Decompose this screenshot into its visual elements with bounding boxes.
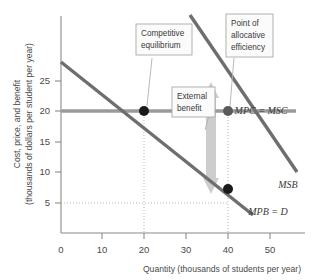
y-tick-label-5: 5 bbox=[45, 197, 50, 208]
y-tick-label-15: 15 bbox=[39, 136, 50, 147]
callout-competitive-equilibrium-line1: Competitive bbox=[141, 29, 185, 38]
marker-allocative-efficiency[interactable] bbox=[223, 106, 233, 116]
x-tick-label-30: 30 bbox=[181, 244, 192, 255]
y-axis-label-line2: (thousands of dollars per student per ye… bbox=[24, 43, 34, 205]
callout-allocative-efficiency[interactable]: Point of allocative efficiency bbox=[226, 14, 273, 57]
x-tick-label-0: 0 bbox=[58, 244, 63, 255]
marker-private-quantity[interactable] bbox=[223, 184, 233, 194]
x-tick-label-10: 10 bbox=[97, 244, 108, 255]
x-tick-label-20: 20 bbox=[139, 244, 150, 255]
y-tick-label-25: 25 bbox=[39, 75, 50, 86]
y-tick-label-10: 10 bbox=[39, 166, 50, 177]
marker-competitive-equilibrium[interactable] bbox=[139, 106, 149, 116]
callout-competitive-equilibrium[interactable]: Competitive equilibrium bbox=[136, 24, 192, 55]
x-axis-label: Quantity (thousands of students per year… bbox=[143, 264, 301, 274]
callout-competitive-equilibrium-line2: equilibrium bbox=[141, 41, 181, 50]
mpb-d-label: MPB = D bbox=[247, 206, 288, 217]
y-axis-label-line1: Cost, price, and benefit bbox=[12, 79, 22, 168]
mpc-msc-label: MPC = MSC bbox=[234, 105, 288, 116]
y-tick-label-20: 20 bbox=[39, 105, 50, 116]
economics-chart-figure: 5 10 15 20 25 0 10 20 30 40 50 Quantity … bbox=[0, 0, 319, 280]
x-tick-label-50: 50 bbox=[265, 244, 276, 255]
callout-allocative-efficiency-line2: allocative bbox=[231, 31, 266, 40]
callout-external-benefit[interactable]: External benefit bbox=[172, 87, 215, 117]
callout-external-benefit-line1: External bbox=[177, 92, 207, 101]
chart-svg: 5 10 15 20 25 0 10 20 30 40 50 Quantity … bbox=[0, 0, 319, 280]
callout-external-benefit-line2: benefit bbox=[177, 104, 202, 113]
callout-allocative-efficiency-line1: Point of bbox=[231, 19, 259, 28]
x-tick-label-40: 40 bbox=[223, 244, 234, 255]
callout-allocative-efficiency-line3: efficiency bbox=[231, 43, 266, 52]
msb-label: MSB bbox=[277, 179, 297, 190]
